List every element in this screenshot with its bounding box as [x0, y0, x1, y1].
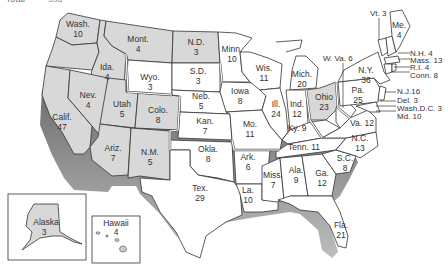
svg-text:47: 47 — [57, 122, 67, 132]
svg-text:10: 10 — [73, 29, 83, 39]
svg-text:8: 8 — [206, 154, 211, 164]
svg-text:10: 10 — [243, 195, 253, 205]
svg-text:Tenn. 11: Tenn. 11 — [288, 142, 320, 152]
svg-text:29: 29 — [195, 193, 205, 203]
svg-text:7: 7 — [203, 126, 208, 136]
svg-text:4: 4 — [136, 44, 141, 54]
svg-text:Alaska: Alaska — [33, 217, 59, 227]
svg-text:6: 6 — [246, 162, 251, 172]
svg-text:Tex.: Tex. — [192, 183, 208, 193]
svg-text:Pa.: Pa. — [352, 85, 365, 95]
svg-text:4: 4 — [105, 72, 110, 82]
state-ri[interactable] — [392, 64, 396, 72]
svg-text:Ark.: Ark. — [240, 152, 255, 162]
svg-text:36: 36 — [361, 75, 371, 85]
svg-text:Me.: Me. — [392, 20, 406, 30]
svg-text:Ky. 9: Ky. 9 — [288, 123, 307, 133]
svg-text:Ind.: Ind. — [290, 99, 304, 109]
state-conn[interactable] — [384, 64, 392, 74]
svg-text:4: 4 — [397, 30, 402, 40]
svg-text:3: 3 — [148, 82, 153, 92]
svg-text:25: 25 — [353, 95, 363, 105]
svg-text:Mo.: Mo. — [243, 119, 257, 129]
svg-text:8: 8 — [343, 163, 348, 173]
svg-text:11: 11 — [260, 73, 269, 83]
svg-text:4: 4 — [86, 100, 91, 110]
svg-text:12: 12 — [317, 178, 327, 188]
svg-text:Ida.: Ida. — [100, 62, 114, 72]
svg-text:5: 5 — [199, 101, 204, 111]
svg-text:Wash.: Wash. — [66, 19, 90, 29]
svg-text:8: 8 — [238, 96, 243, 106]
svg-text:S.D.: S.D. — [190, 66, 207, 76]
alaska-inset[interactable]: Alaska 3 — [8, 194, 86, 260]
svg-text:5: 5 — [148, 157, 153, 167]
svg-text:W. Va. 6: W. Va. 6 — [323, 54, 353, 63]
svg-text:9: 9 — [294, 175, 299, 185]
svg-text:Mont.: Mont. — [127, 34, 148, 44]
svg-text:Va. 12: Va. 12 — [350, 118, 374, 128]
svg-text:Iowa: Iowa — [231, 86, 249, 96]
svg-text:5: 5 — [120, 109, 125, 119]
state-mass[interactable] — [384, 56, 400, 64]
svg-text:Ariz.: Ariz. — [105, 143, 122, 153]
svg-text:Vt. 3: Vt. 3 — [370, 9, 387, 18]
svg-text:Utah: Utah — [113, 99, 131, 109]
svg-text:20: 20 — [297, 79, 307, 89]
svg-text:Fla.: Fla. — [334, 220, 348, 230]
svg-text:Mich.: Mich. — [292, 69, 312, 79]
svg-text:13: 13 — [355, 143, 365, 153]
svg-text:N.J.16: N.J.16 — [397, 87, 421, 96]
svg-text:3: 3 — [194, 47, 199, 57]
svg-text:N.D.: N.D. — [188, 37, 205, 47]
svg-text:24: 24 — [271, 109, 281, 119]
svg-text:Ohio: Ohio — [315, 92, 333, 102]
svg-text:Neb.: Neb. — [192, 91, 210, 101]
svg-text:Wyo.: Wyo. — [140, 72, 159, 82]
us-electoral-map: Wash. 10 Mont. 4 Ida. 4 Wyo. 3 N.D. 3 S.… — [0, 0, 448, 267]
svg-text:N.M.: N.M. — [141, 147, 159, 157]
svg-text:3: 3 — [196, 76, 201, 86]
svg-text:11: 11 — [246, 129, 255, 139]
svg-text:Colo.: Colo. — [148, 105, 168, 115]
svg-text:N.Y.: N.Y. — [358, 65, 373, 75]
svg-text:Ill.: Ill. — [272, 99, 281, 109]
svg-text:Calif.: Calif. — [52, 112, 71, 122]
svg-text:10: 10 — [227, 54, 237, 64]
svg-text:Wis.: Wis. — [256, 63, 273, 73]
svg-text:S.C.: S.C. — [337, 153, 354, 163]
svg-text:23: 23 — [319, 102, 329, 112]
svg-text:21: 21 — [336, 230, 346, 240]
svg-text:7: 7 — [271, 180, 276, 190]
svg-text:Conn. 8: Conn. 8 — [410, 71, 439, 80]
svg-text:Miss.: Miss. — [263, 170, 283, 180]
svg-text:La.: La. — [242, 185, 254, 195]
svg-text:Ala.: Ala. — [289, 165, 304, 175]
svg-text:Nev.: Nev. — [80, 90, 97, 100]
svg-text:N.C.: N.C. — [352, 133, 369, 143]
svg-text:Md. 10: Md. 10 — [397, 112, 422, 121]
svg-text:7: 7 — [111, 153, 116, 163]
svg-text:3: 3 — [42, 227, 47, 237]
svg-text:Kan.: Kan. — [196, 116, 214, 126]
hawaii-inset[interactable]: Hawaii 4 — [92, 216, 140, 263]
svg-text:8: 8 — [156, 115, 161, 125]
svg-text:Okla.: Okla. — [198, 144, 218, 154]
svg-text:4: 4 — [114, 227, 119, 237]
svg-text:Minn.: Minn. — [222, 44, 243, 54]
svg-text:Ga.: Ga. — [315, 168, 329, 178]
svg-text:12: 12 — [292, 109, 302, 119]
